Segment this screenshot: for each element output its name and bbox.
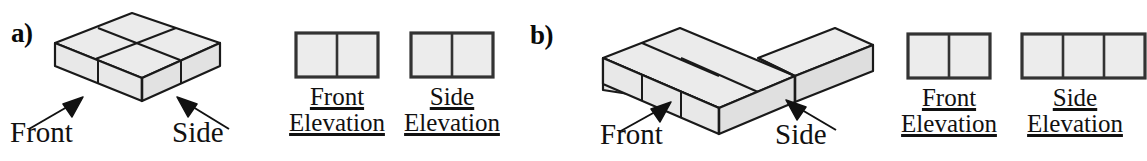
front-elevation-diagram-b xyxy=(906,32,992,80)
side-elevation-caption-line1-a: Side xyxy=(395,84,509,110)
figure-root: a) Front Si xyxy=(0,0,1147,161)
front-elevation-caption-line1-b: Front xyxy=(892,85,1006,111)
side-elevation-caption-line1-b: Side xyxy=(1010,85,1140,111)
front-elevation-caption-line2-a: Elevation xyxy=(280,110,394,136)
front-elevation-caption-a: Front Elevation xyxy=(280,84,394,136)
figure-part-b: b) xyxy=(520,0,1147,161)
side-direction-label-a: Side xyxy=(172,118,224,147)
side-elevation-caption-a: Side Elevation xyxy=(395,84,509,136)
front-elevation-caption-line2-b: Elevation xyxy=(892,111,1006,137)
front-elevation-caption-b: Front Elevation xyxy=(892,85,1006,137)
part-label-b: b) xyxy=(530,22,553,49)
side-direction-label-b: Side xyxy=(775,120,827,149)
front-elevation-diagram-a xyxy=(294,31,380,79)
isometric-solid-a xyxy=(45,8,230,108)
front-elevation-caption-line1-a: Front xyxy=(280,84,394,110)
side-elevation-caption-line2-a: Elevation xyxy=(395,110,509,136)
front-direction-label-b: Front xyxy=(600,120,663,149)
side-elevation-diagram-a xyxy=(409,31,495,79)
front-direction-label-a: Front xyxy=(10,118,73,147)
part-label-a: a) xyxy=(11,20,33,47)
figure-part-a: a) Front Si xyxy=(0,0,530,161)
side-elevation-caption-b: Side Elevation xyxy=(1010,85,1140,137)
side-elevation-caption-line2-b: Elevation xyxy=(1010,111,1140,137)
side-elevation-diagram-b xyxy=(1020,32,1147,80)
